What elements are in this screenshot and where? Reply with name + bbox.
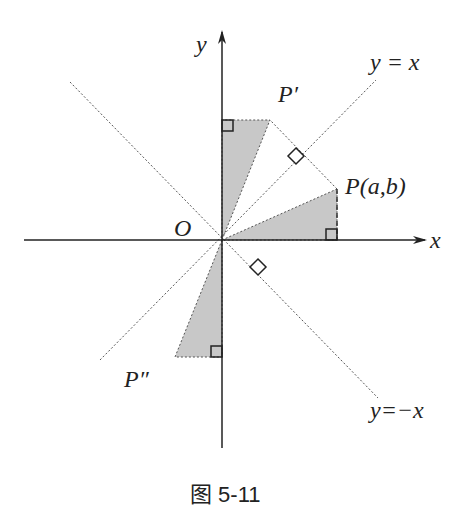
right-angle-mark-yx (288, 148, 304, 164)
point-p-prime-label: P′ (277, 81, 299, 107)
point-p-label: P(a,b) (344, 173, 406, 199)
y-axis-label: y (194, 31, 207, 57)
right-angle-mark-y-neg-x (250, 259, 266, 275)
figure-caption: 图 5-11 (190, 482, 261, 507)
origin-label: O (174, 215, 191, 241)
shaded-triangle-p-double-prime (175, 240, 222, 357)
point-p-double-prime-label: P″ (123, 366, 150, 392)
line-y-eq-x-label: y = x (368, 49, 420, 75)
diagram-canvas: y x O P(a,b) P′ P″ y = x y=−x 图 5-11 (0, 0, 463, 525)
line-y-eq-neg-x-label: y=−x (368, 397, 424, 423)
x-axis-label: x (429, 227, 441, 253)
